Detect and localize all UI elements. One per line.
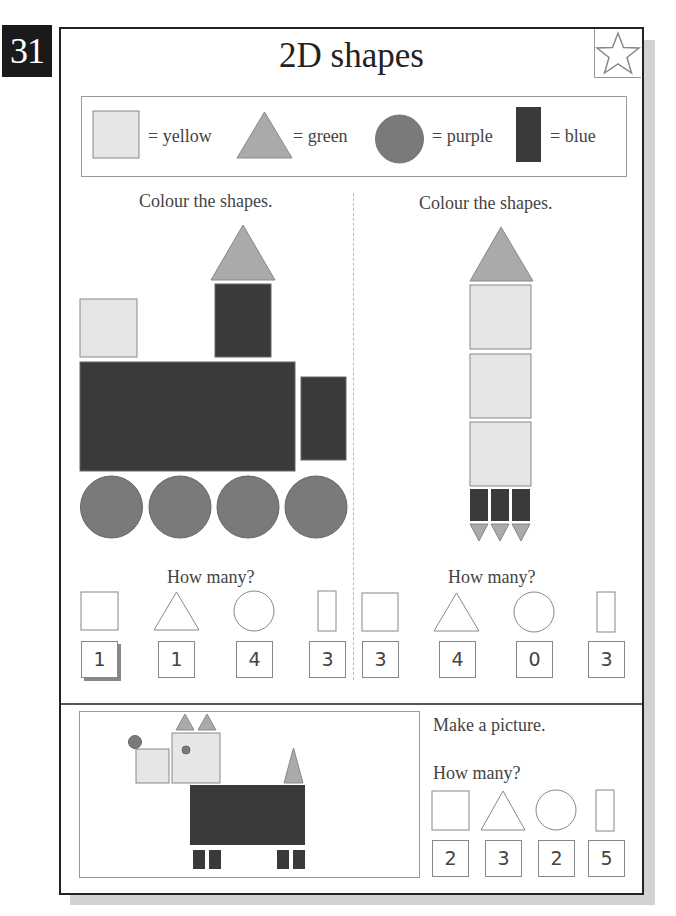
bottom-answer-rectangles[interactable]: 5 (588, 840, 625, 877)
bottom-answer-triangles[interactable]: 3 (485, 840, 522, 877)
rectangle-outline-icon (596, 790, 614, 831)
circle-outline-icon (536, 790, 576, 830)
bottom-count-icons (0, 0, 676, 916)
square-outline-icon (432, 791, 469, 830)
bottom-answer-circles[interactable]: 2 (538, 840, 575, 877)
triangle-outline-icon (481, 791, 525, 830)
bottom-answer-squares[interactable]: 2 (432, 840, 469, 877)
